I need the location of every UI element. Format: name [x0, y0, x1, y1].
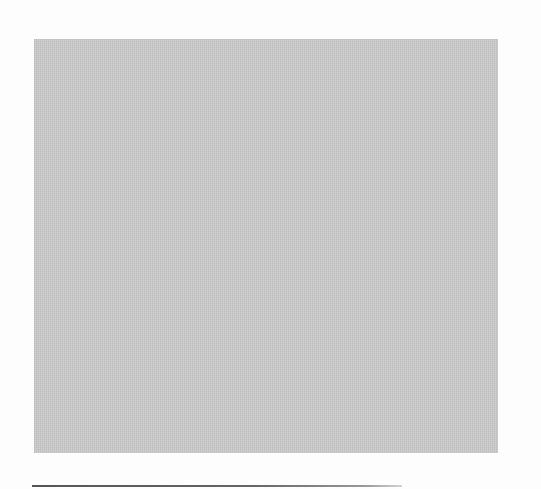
gray-halftone-panel [34, 39, 498, 453]
horizontal-rule [32, 485, 402, 487]
